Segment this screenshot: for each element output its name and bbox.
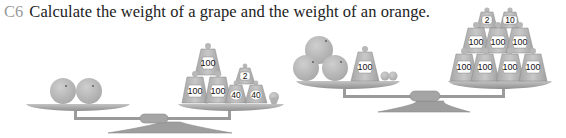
balance-scale-icon	[26, 104, 284, 133]
scale-1: 100 100 100 2 40	[26, 43, 284, 133]
orange-icon	[293, 55, 319, 81]
weight-label: 100	[490, 37, 505, 47]
weight-icon: 2	[235, 64, 255, 84]
weight-label: 100	[200, 58, 215, 68]
weight-icon: 10	[500, 7, 520, 28]
grape-icon	[269, 92, 279, 105]
weight-label: 10	[505, 15, 515, 25]
grape-icon	[389, 72, 398, 81]
weight-label: 100	[210, 86, 225, 96]
scale-2: 100 2 10 100	[293, 7, 552, 112]
balance-scale-icon	[296, 81, 552, 112]
weight-label: 100	[502, 62, 517, 72]
weight-icon: 100	[195, 43, 221, 75]
grape-icon	[381, 72, 390, 81]
weight-label: 40	[251, 90, 261, 100]
weight-label: 2	[485, 15, 490, 25]
weight-label: 100	[357, 62, 372, 72]
orange-icon	[76, 78, 102, 104]
weight-icon: 100	[351, 46, 379, 81]
orange-icon	[322, 55, 348, 81]
weight-label: 40	[231, 90, 241, 100]
weight-icon: 2	[477, 7, 497, 28]
weight-label: 100	[456, 62, 471, 72]
orange-icon	[50, 78, 76, 104]
weight-label: 100	[512, 37, 527, 47]
weight-label: 100	[187, 86, 202, 96]
weight-icon: 100	[182, 71, 208, 103]
weight-label: 100	[525, 62, 540, 72]
weight-label: 100	[468, 37, 483, 47]
weight-label: 2	[243, 71, 248, 81]
balance-scales-illustration: 100 100 100 2 40	[0, 0, 566, 138]
weight-label: 100	[477, 62, 492, 72]
